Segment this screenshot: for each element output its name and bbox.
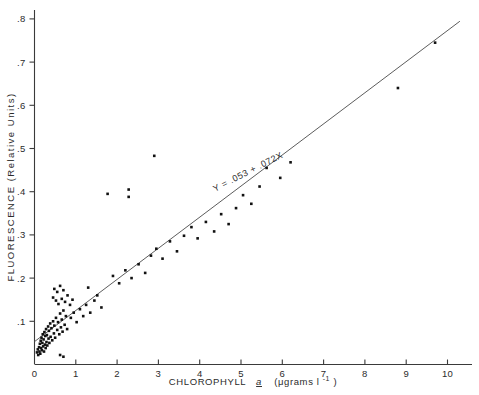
data-point [39,352,42,355]
data-point [44,343,47,346]
data-point [235,207,238,210]
data-point [75,321,78,324]
data-point [130,277,133,280]
data-point [59,312,62,315]
x-tick-label: 0 [32,368,38,379]
data-point [60,298,63,301]
data-point [258,185,261,188]
data-point [220,213,223,216]
data-point [57,321,60,324]
data-point [169,240,172,243]
y-tick-label: .5 [17,143,26,154]
data-point [60,326,63,329]
data-point [59,285,62,288]
data-point [155,247,158,250]
data-point [46,344,49,347]
data-point [56,329,59,332]
data-point [205,221,208,224]
data-point [118,282,121,285]
data-point [52,296,55,299]
x-axis-title-units: (μgrams l [274,376,319,387]
data-point [53,288,56,291]
data-point [82,315,85,318]
y-tick-label: .1 [17,316,26,327]
data-point [242,194,245,197]
data-point [61,330,64,333]
data-point [50,327,53,330]
data-point [56,291,59,294]
data-point [79,308,82,311]
data-point [183,234,186,237]
data-point [227,223,230,226]
data-point [62,289,65,292]
data-point [60,318,63,321]
data-point [53,324,56,327]
data-point [150,254,153,257]
data-point [87,286,90,289]
y-tick-label: .2 [17,273,26,284]
x-tick-label: 1 [73,368,79,379]
y-tick-label: .6 [17,100,26,111]
y-tick-label: .3 [17,229,26,240]
y-axis-title: FLUORESCENCE (Relative Units) [5,92,16,281]
data-point [55,317,58,320]
y-tick-label: .7 [17,57,26,68]
data-point [213,230,216,233]
data-point [96,294,99,297]
data-point [93,299,96,302]
data-point [45,341,48,344]
data-point [62,309,65,312]
data-point [176,250,179,253]
data-point [137,263,140,266]
y-tick-label: .4 [17,186,26,197]
data-point [51,339,54,342]
data-point [63,323,66,326]
data-point [49,336,52,339]
data-point [48,330,51,333]
data-point [53,332,56,335]
data-point [44,347,47,350]
data-point [54,336,57,339]
data-point [289,161,292,164]
data-point [49,322,52,325]
x-tick-label: 9 [403,368,409,379]
data-point [153,155,156,158]
data-point [161,257,164,260]
data-point [42,338,45,341]
data-point [59,354,62,357]
x-axis-title-main: CHLOROPHYLL [169,376,246,387]
data-point [46,334,49,337]
data-point [127,188,130,191]
data-point [47,325,50,328]
data-point [85,304,88,307]
data-point [89,311,92,314]
x-axis-title-exponent: -1 [323,375,330,382]
data-point [57,303,60,306]
x-axis-title-close: ) [333,376,337,387]
data-point [65,315,68,318]
data-point [196,237,199,240]
data-point [58,333,61,336]
figure-background [0,0,479,395]
scatter-figure: .1.2.3.4.5.6.7.8 FLUORESCENCE (Relative … [0,0,479,395]
data-point [279,177,282,180]
data-point [190,226,193,229]
data-point [43,350,46,353]
data-point [66,294,69,297]
data-point [100,306,103,309]
data-point [69,304,72,307]
data-point [41,342,44,345]
data-point [72,311,75,314]
data-point [250,203,253,206]
data-point [106,193,109,196]
data-point [64,301,67,304]
data-point [48,342,51,345]
data-point [124,269,127,272]
data-point [36,351,39,354]
plot-canvas: .1.2.3.4.5.6.7.8 FLUORESCENCE (Relative … [0,0,479,395]
data-point [66,328,69,331]
data-point [70,317,73,320]
data-point [144,272,147,275]
data-point [39,342,42,345]
data-point [62,355,65,358]
